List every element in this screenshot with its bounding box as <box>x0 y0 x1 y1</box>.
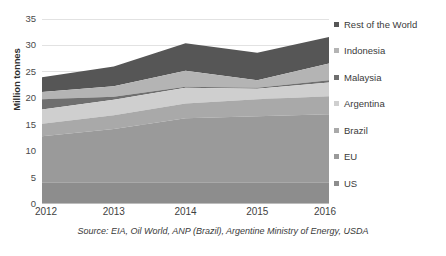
legend-label: Brazil <box>344 125 368 136</box>
legend-swatch-icon <box>334 75 339 80</box>
legend-item-malaysia[interactable]: Malaysia <box>334 71 382 83</box>
legend-item-brazil[interactable]: Brazil <box>334 124 368 136</box>
x-axis-tick-labels: 20122013201420152016 <box>42 206 329 222</box>
legend-item-rest-of-the-world[interactable]: Rest of the World <box>334 18 417 30</box>
stacked-area-chart: Million tonnes 35302520151050 2012201320… <box>0 0 446 256</box>
y-tick-label-25: 25 <box>14 67 36 77</box>
legend-item-argentina[interactable]: Argentina <box>334 98 385 110</box>
legend-label: Malaysia <box>344 72 382 83</box>
legend-swatch-icon <box>334 48 339 53</box>
x-tick-label-2012: 2012 <box>24 206 68 217</box>
legend-label: Rest of the World <box>344 19 417 30</box>
x-tick-label-2015: 2015 <box>235 206 279 217</box>
legend-swatch-icon <box>334 181 339 186</box>
legend-item-us[interactable]: US <box>334 177 357 189</box>
legend-swatch-icon <box>334 128 339 133</box>
y-tick-label-35: 35 <box>14 14 36 24</box>
legend-label: Argentina <box>344 98 385 109</box>
legend-label: EU <box>344 151 357 162</box>
area-band-us <box>42 183 329 204</box>
y-tick-label-30: 30 <box>14 40 36 50</box>
chart-legend: Rest of the WorldIndonesiaMalaysiaArgent… <box>334 18 446 208</box>
y-tick-label-10: 10 <box>14 146 36 156</box>
legend-swatch-icon <box>334 154 339 159</box>
y-tick-label-15: 15 <box>14 120 36 130</box>
y-axis-tick-labels: 35302520151050 <box>12 0 36 256</box>
y-tick-label-20: 20 <box>14 93 36 103</box>
legend-swatch-icon <box>334 22 339 27</box>
x-tick-label-2013: 2013 <box>92 206 136 217</box>
legend-label: Indonesia <box>344 45 385 56</box>
legend-label: US <box>344 178 357 189</box>
legend-swatch-icon <box>334 101 339 106</box>
plot-svg <box>42 19 329 204</box>
area-bands <box>42 37 329 204</box>
legend-item-eu[interactable]: EU <box>334 151 357 163</box>
legend-item-indonesia[interactable]: Indonesia <box>334 45 385 57</box>
plot-area <box>42 19 329 204</box>
y-tick-label-5: 5 <box>14 173 36 183</box>
source-note: Source: EIA, Oil World, ANP (Brazil), Ar… <box>0 226 446 236</box>
x-tick-label-2014: 2014 <box>164 206 208 217</box>
